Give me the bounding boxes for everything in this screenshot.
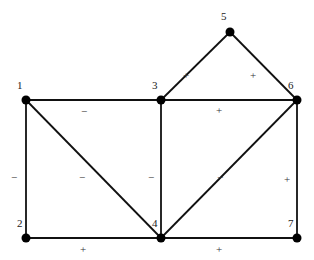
node-4 [157,234,166,243]
node-2 [22,234,31,243]
node-label: 1 [17,79,23,91]
node-label: 7 [288,217,294,229]
node-label: 4 [152,217,158,229]
edge-sign-label: + [250,69,256,81]
node-6 [293,96,302,105]
edge-sign-label: − [217,171,223,183]
edge-3-5 [161,32,230,100]
edge-sign-label: + [284,173,290,185]
node-label: 3 [152,79,158,91]
node-label: 2 [17,217,23,229]
signed-graph: −−−+−+++−++ 1234567 [0,0,314,260]
edge-4-6 [161,100,297,238]
edge-sign-label: − [81,105,87,117]
node-3 [157,96,166,105]
edge-sign-label: + [183,69,189,81]
edges-layer [26,32,297,238]
node-1 [22,96,31,105]
edge-sign-label: + [80,243,86,255]
edge-sign-label: + [216,104,222,116]
node-7 [293,234,302,243]
edge-5-6 [230,32,297,100]
edge-sign-label: − [79,171,85,183]
node-label: 6 [288,79,294,91]
node-label: 5 [221,10,227,22]
edge-sign-label: + [216,243,222,255]
edge-sign-label: − [148,171,154,183]
node-labels-layer: 1234567 [17,10,294,229]
edge-1-4 [26,100,161,238]
node-5 [226,28,235,37]
edge-sign-label: − [11,171,17,183]
